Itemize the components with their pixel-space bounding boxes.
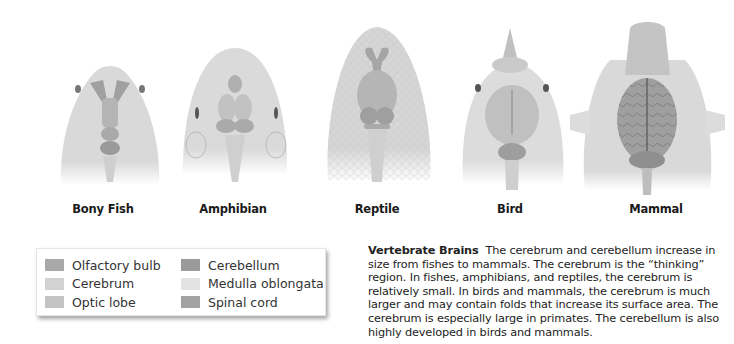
caption-title: Vertebrate Brains (368, 244, 479, 257)
caption-text: The cerebrum and cerebellum increase in … (368, 244, 719, 339)
swatch-optic-lobe (45, 296, 64, 308)
legend-item-spinal-cord: Spinal cord (181, 293, 324, 312)
legend-item-medulla-oblongata: Medulla oblongata (181, 275, 324, 294)
label-mammal: Mammal (629, 202, 683, 216)
swatch-medulla-oblongata (181, 278, 200, 290)
figure-caption: Vertebrate Brains The cerebrum and cereb… (368, 244, 733, 339)
legend-label: Cerebellum (208, 258, 280, 273)
legend-label: Medulla oblongata (208, 276, 324, 291)
swatch-spinal-cord (181, 296, 200, 308)
legend-label: Optic lobe (72, 295, 136, 310)
legend-item-optic-lobe: Optic lobe (45, 293, 161, 312)
label-bony-fish: Bony Fish (72, 202, 133, 216)
swatch-cerebrum (45, 278, 64, 290)
bony-fish-illustration (55, 0, 165, 195)
legend-label: Cerebrum (72, 276, 134, 291)
legend-label: Spinal cord (208, 295, 278, 310)
amphibian-illustration (180, 0, 290, 195)
label-reptile: Reptile (355, 202, 400, 216)
label-bird: Bird (497, 202, 523, 216)
legend-item-cerebellum: Cerebellum (181, 256, 324, 275)
swatch-olfactory-bulb (45, 259, 64, 271)
legend-item-cerebrum: Cerebrum (45, 275, 161, 294)
legend: Olfactory bulb Cerebrum Optic lobe Cereb… (36, 248, 326, 316)
bird-illustration (458, 0, 568, 195)
reptile-illustration (322, 0, 437, 195)
legend-label: Olfactory bulb (72, 258, 161, 273)
swatch-cerebellum (181, 259, 200, 271)
mammal-illustration (565, 0, 730, 200)
label-amphibian: Amphibian (199, 202, 267, 216)
legend-item-olfactory-bulb: Olfactory bulb (45, 256, 161, 275)
